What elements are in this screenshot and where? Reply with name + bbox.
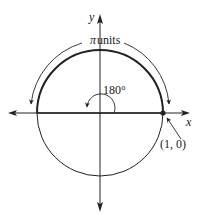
arc-length-label: πunits bbox=[90, 33, 121, 47]
y-axis-label: y bbox=[88, 10, 95, 24]
point-label: (1, 0) bbox=[160, 137, 186, 151]
angle-label: 180° bbox=[103, 83, 126, 97]
point-1-0 bbox=[160, 110, 165, 115]
x-axis-label: x bbox=[185, 115, 192, 129]
units-word: units bbox=[97, 33, 121, 47]
unit-circle-diagram: y x πunits 180° (1, 0) bbox=[0, 0, 198, 216]
point-pointer-arrow bbox=[167, 118, 181, 139]
pi-symbol: π bbox=[90, 33, 97, 47]
arc-length-arrow-right bbox=[124, 43, 169, 104]
